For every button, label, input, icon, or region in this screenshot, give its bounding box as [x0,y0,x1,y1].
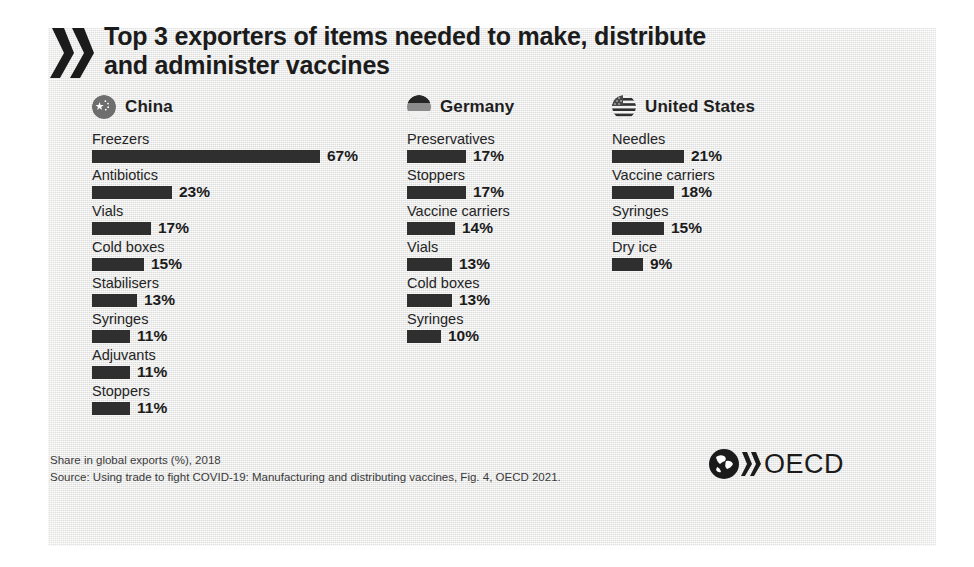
bar-value: 9% [650,255,672,273]
oecd-logo-text: OECD [764,449,844,480]
bar-label: Adjuvants [92,347,392,363]
oecd-globe-icon [708,448,740,480]
bar-label: Antibiotics [92,167,392,183]
bar-fill [92,222,151,235]
bar-value: 23% [179,183,210,201]
bar-row: Needles21% [612,131,812,164]
bar-row: Vials17% [92,203,392,236]
bar-fill [407,330,441,343]
bar-fill [612,186,674,199]
china-flag-icon [92,95,116,119]
country-column-united-states: United States Needles21% Vaccine carrier… [612,92,812,275]
bar-fill [92,330,130,343]
country-name-united-states: United States [645,97,755,117]
bar-row: Vaccine carriers18% [612,167,812,200]
bar-row: Syringes15% [612,203,812,236]
bar-value: 13% [144,291,175,309]
bar-fill [612,222,664,235]
bar-row: Antibiotics23% [92,167,392,200]
page-title-line2: and administer vaccines [104,51,706,80]
bar-value: 15% [151,255,182,273]
title-block: Top 3 exporters of items needed to make,… [50,22,706,82]
country-name-china: China [125,97,173,117]
bar-value: 14% [462,219,493,237]
bar-label: Cold boxes [92,239,392,255]
bar-row: Syringes11% [92,311,392,344]
bar-label: Vials [407,239,607,255]
bar-fill [92,258,144,271]
bar-label: Freezers [92,131,392,147]
bar-row: Preservatives17% [407,131,607,164]
bar-row: Vaccine carriers14% [407,203,607,236]
country-header-china: China [92,92,392,122]
bar-fill [92,150,320,163]
usa-flag-icon [612,95,636,119]
bar-row: Vials13% [407,239,607,272]
bar-row: Stabilisers13% [92,275,392,308]
bar-value: 17% [158,219,189,237]
country-name-germany: Germany [440,97,514,117]
country-header-germany: Germany [407,92,607,122]
germany-flag-icon [407,95,431,119]
bar-fill [92,402,130,415]
oecd-chevron-icon [741,450,761,478]
bar-value: 13% [459,255,490,273]
bar-label: Stoppers [92,383,392,399]
bar-fill [407,258,452,271]
bar-value: 11% [137,327,167,345]
bar-row: Stoppers17% [407,167,607,200]
bar-row: Adjuvants11% [92,347,392,380]
bar-value: 67% [327,147,358,165]
bar-value: 11% [137,363,167,381]
bar-row: Stoppers11% [92,383,392,416]
bar-label: Preservatives [407,131,607,147]
bar-row: Freezers67% [92,131,392,164]
page-title-line1: Top 3 exporters of items needed to make,… [104,22,706,51]
bar-label: Syringes [612,203,812,219]
bar-label: Vaccine carriers [612,167,812,183]
bar-label: Dry ice [612,239,812,255]
country-column-china: China Freezers67% Antibiotics23% Vials17… [92,92,392,419]
bar-label: Vials [92,203,392,219]
bar-value: 15% [671,219,702,237]
bar-label: Vaccine carriers [407,203,607,219]
bar-label: Needles [612,131,812,147]
page-title: Top 3 exporters of items needed to make,… [104,22,706,80]
country-column-germany: Germany Preservatives17% Stoppers17% Vac… [407,92,607,347]
bar-label: Syringes [92,311,392,327]
bar-label: Stoppers [407,167,607,183]
bar-fill [407,294,452,307]
bar-value: 17% [473,147,504,165]
bar-value: 18% [681,183,712,201]
bar-row: Cold boxes15% [92,239,392,272]
bar-value: 10% [448,327,479,345]
oecd-logo: OECD [708,448,844,480]
bar-row: Cold boxes13% [407,275,607,308]
bar-value: 21% [691,147,722,165]
bar-row: Syringes10% [407,311,607,344]
bar-list-germany: Preservatives17% Stoppers17% Vaccine car… [407,131,607,344]
bar-list-united-states: Needles21% Vaccine carriers18% Syringes1… [612,131,812,272]
bar-value: 17% [473,183,504,201]
bar-fill [407,150,466,163]
bar-fill [612,258,643,271]
bar-value: 11% [137,399,167,417]
infographic-root: Top 3 exporters of items needed to make,… [0,0,974,567]
bar-fill [407,222,455,235]
bar-label: Syringes [407,311,607,327]
bar-fill [92,366,130,379]
oecd-chevron-mark-icon [50,24,94,82]
bar-row: Dry ice9% [612,239,812,272]
bar-label: Stabilisers [92,275,392,291]
bar-fill [407,186,466,199]
bar-label: Cold boxes [407,275,607,291]
bar-list-china: Freezers67% Antibiotics23% Vials17% Cold… [92,131,392,416]
country-header-united-states: United States [612,92,812,122]
bar-fill [92,186,172,199]
bar-value: 13% [459,291,490,309]
bar-fill [92,294,137,307]
bar-fill [612,150,684,163]
